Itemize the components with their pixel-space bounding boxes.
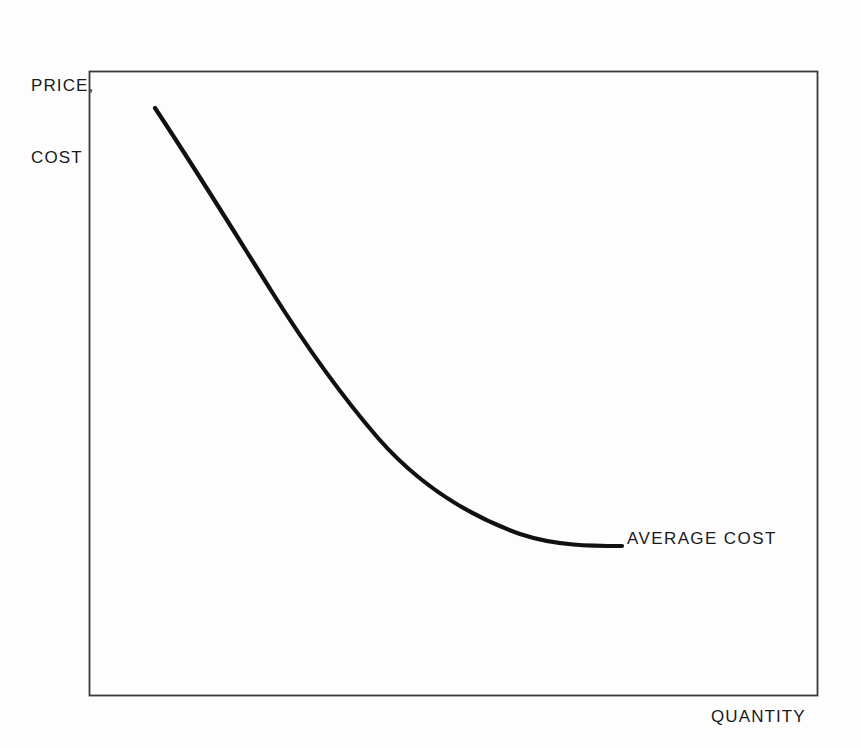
average-cost-curve bbox=[155, 108, 622, 546]
plot-frame bbox=[90, 72, 818, 696]
plot-area bbox=[0, 0, 861, 748]
figure-container: PRICE, COST QUANTITY AVERAGE COST bbox=[0, 0, 861, 748]
